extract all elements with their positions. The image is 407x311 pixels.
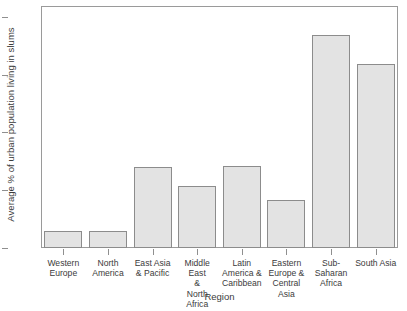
x-axis-tick-label-line: South Asia — [353, 258, 398, 268]
x-axis-tick-label-line: Africa — [309, 278, 354, 288]
bar-chart: Average % of urban population living in … — [0, 0, 407, 311]
y-axis-tick-mark — [2, 17, 8, 18]
x-axis-tick-mark — [242, 249, 243, 255]
y-axis-tick-mark — [2, 190, 8, 191]
x-axis-tick-mark — [331, 249, 332, 255]
x-axis-tick-label-line: Western — [41, 258, 86, 268]
y-axis-title-text: Average % of urban population living in … — [5, 27, 16, 221]
x-axis-tick-label-line: Saharan — [309, 268, 354, 278]
y-axis-tick-mark — [2, 132, 8, 133]
x-axis-tick-label-line: Middle East — [175, 258, 220, 278]
bar[interactable] — [267, 200, 305, 248]
x-axis-tick-label-line: & — [175, 278, 220, 288]
x-axis-tick-label-line: & Pacific — [130, 268, 175, 278]
y-axis-title: Average % of urban population living in … — [0, 0, 20, 248]
x-axis-tick-label: WesternEurope — [41, 258, 86, 278]
bar[interactable] — [312, 35, 350, 248]
x-axis-tick-mark — [63, 249, 64, 255]
x-axis-tick-mark — [153, 249, 154, 255]
x-axis-tick-label-line: East Asia — [130, 258, 175, 268]
x-axis-tick-label: Sub-SaharanAfrica — [309, 258, 354, 289]
bar[interactable] — [357, 64, 395, 248]
x-axis-tick-mark — [108, 249, 109, 255]
x-axis-tick-label-line: Central — [264, 278, 309, 288]
x-axis-tick-label-line: Europe & — [264, 268, 309, 278]
x-axis-tick-label-line: America — [86, 268, 131, 278]
x-axis-title: Region — [41, 291, 398, 302]
x-axis-tick-mark — [197, 249, 198, 255]
x-axis-tick-label: South Asia — [353, 258, 398, 268]
y-axis-tick-mark — [2, 75, 8, 76]
x-axis-tick-mark — [376, 249, 377, 255]
x-axis-tick-label: LatinAmerica &Caribbean — [220, 258, 265, 289]
x-axis-tick-label-line: Latin — [220, 258, 265, 268]
y-axis-tick-mark — [2, 248, 8, 249]
x-axis-tick-label: NorthAmerica — [86, 258, 131, 278]
bar[interactable] — [89, 231, 127, 248]
x-axis-tick-label-line: Eastern — [264, 258, 309, 268]
x-axis-tick-label-line: America & — [220, 268, 265, 278]
x-axis-tick-label-line: Sub- — [309, 258, 354, 268]
x-axis-tick-mark — [286, 249, 287, 255]
x-axis-tick-label-line: North — [86, 258, 131, 268]
bar[interactable] — [44, 231, 82, 248]
bar[interactable] — [178, 186, 216, 248]
bar[interactable] — [223, 166, 261, 248]
x-axis-tick-label-line: Europe — [41, 268, 86, 278]
bar[interactable] — [134, 167, 172, 248]
x-axis-tick-label: East Asia& Pacific — [130, 258, 175, 278]
x-axis-tick-label-line: Caribbean — [220, 278, 265, 288]
